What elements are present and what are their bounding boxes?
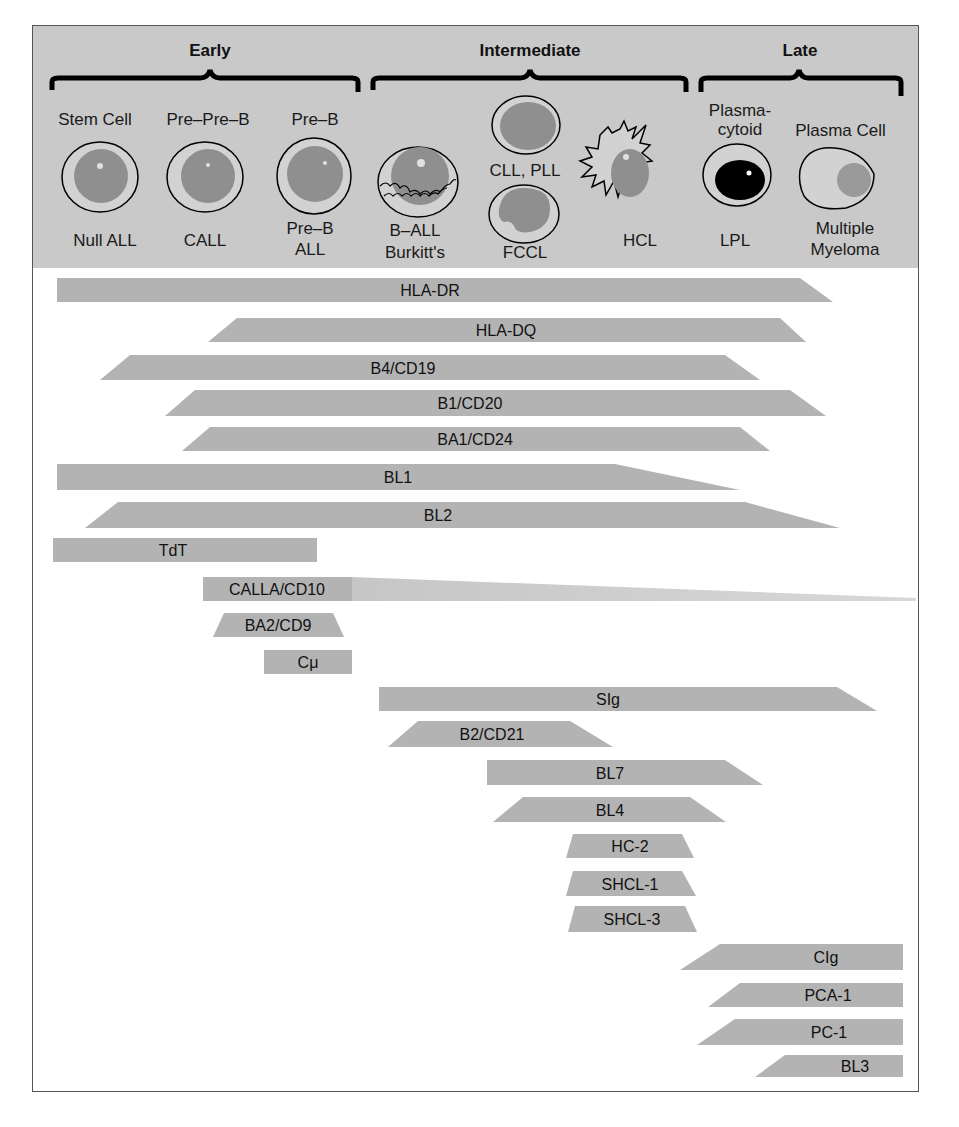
plasma-cell-icon xyxy=(800,148,875,209)
bracket-intermediate xyxy=(373,70,686,92)
hcl-cell-icon xyxy=(580,121,652,197)
b-all-cell-icon xyxy=(378,147,458,217)
cell-name-stem-cell: Stem Cell xyxy=(45,110,145,129)
marker-bar-hla-dq: HLA-DQ xyxy=(208,318,806,342)
disease-call: CALL xyxy=(170,231,240,250)
marker-label: SIg xyxy=(596,691,620,708)
disease-burkitts: Burkitt's xyxy=(365,243,465,262)
marker-bar-pca-1: PCA-1 xyxy=(708,983,903,1007)
bracket-early xyxy=(52,70,358,92)
marker-label: SHCL-1 xyxy=(602,876,659,893)
marker-bar-ba1-cd24: BA1/CD24 xyxy=(182,427,770,451)
marker-label: BA1/CD24 xyxy=(437,431,513,448)
pre-pre-b-cell-icon xyxy=(167,142,243,212)
marker-label: HC-2 xyxy=(611,838,648,855)
marker-bar-shcl-3: SHCL-3 xyxy=(568,906,697,932)
cell-name-plasmacytoid-2: cytoid xyxy=(690,120,790,139)
marker-label: Cμ xyxy=(298,654,319,671)
marker-bar-sig: SIg xyxy=(379,687,877,711)
marker-bar-bl7: BL7 xyxy=(487,760,763,785)
marker-bar-pc-1: PC-1 xyxy=(697,1019,903,1045)
marker-label: CIg xyxy=(814,949,839,966)
marker-bar-bl2: BL2 xyxy=(85,502,840,528)
marker-label: BL4 xyxy=(596,802,625,819)
cell-name-plasma-cell: Plasma Cell xyxy=(778,121,903,140)
stem-cell-icon xyxy=(62,142,138,212)
marker-bar-ba2-cd9: BA2/CD9 xyxy=(213,613,344,637)
disease-pre-b-all-1: Pre–B xyxy=(275,219,345,238)
marker-bar-b2-cd21: B2/CD21 xyxy=(388,721,613,747)
marker-label: BL2 xyxy=(424,507,453,524)
marker-bar-b4-cd19: B4/CD19 xyxy=(100,355,760,380)
cell-name-plasmacytoid-1: Plasma- xyxy=(690,101,790,120)
disease-multiple: Multiple xyxy=(790,219,900,238)
calla-cd10-fade-tail xyxy=(352,577,916,601)
marker-label: CALLA/CD10 xyxy=(229,581,325,598)
marker-label: PC-1 xyxy=(811,1024,848,1041)
marker-bar-c-: Cμ xyxy=(264,650,352,674)
pre-b-cell-icon xyxy=(277,138,351,214)
cell-name-pre-pre-b: Pre–Pre–B xyxy=(153,110,263,129)
fccl-cell-icon xyxy=(489,185,559,243)
marker-label: B1/CD20 xyxy=(438,395,503,412)
disease-myeloma: Myeloma xyxy=(790,240,900,259)
marker-label: BL3 xyxy=(841,1058,870,1075)
disease-lpl: LPL xyxy=(700,231,770,250)
marker-label: HLA-DR xyxy=(400,282,460,299)
marker-bar-hla-dr: HLA-DR xyxy=(57,278,833,302)
marker-label: BL1 xyxy=(384,469,413,486)
disease-fccl: FCCL xyxy=(485,243,565,262)
plasmacytoid-cell-icon xyxy=(703,144,771,206)
stage-intermediate: Intermediate xyxy=(460,41,600,61)
cell-name-pre-b: Pre–B xyxy=(280,110,350,129)
cll-pll-cell-icon xyxy=(492,96,560,154)
marker-bar-bl4: BL4 xyxy=(493,797,726,822)
stage-early: Early xyxy=(170,41,250,61)
marker-label: B2/CD21 xyxy=(460,726,525,743)
marker-bar-bl1: BL1 xyxy=(57,464,740,490)
marker-label: TdT xyxy=(159,542,188,559)
marker-bar-cig: CIg xyxy=(680,944,903,970)
disease-hcl: HCL xyxy=(605,231,675,250)
marker-label: BL7 xyxy=(596,765,625,782)
marker-bar-calla-cd10: CALLA/CD10 xyxy=(203,577,352,601)
marker-bar-b1-cd20: B1/CD20 xyxy=(165,390,826,416)
disease-null-all: Null ALL xyxy=(55,231,155,250)
marker-label: PCA-1 xyxy=(804,987,851,1004)
marker-label: B4/CD19 xyxy=(371,360,436,377)
marker-bars: HLA-DRHLA-DQB4/CD19B1/CD20BA1/CD24BL1BL2… xyxy=(53,278,916,1077)
bracket-late xyxy=(701,70,901,96)
marker-bar-tdt: TdT xyxy=(53,538,317,562)
marker-label: SHCL-3 xyxy=(604,911,661,928)
disease-cll-pll: CLL, PLL xyxy=(470,161,580,180)
marker-bar-shcl-1: SHCL-1 xyxy=(566,871,696,896)
marker-label: BA2/CD9 xyxy=(245,617,312,634)
marker-bar-bl3: BL3 xyxy=(755,1055,903,1077)
marker-bar-hc-2: HC-2 xyxy=(566,834,694,858)
disease-b-all: B–ALL xyxy=(370,221,460,240)
stage-late: Late xyxy=(770,41,830,61)
marker-label: HLA-DQ xyxy=(476,322,536,339)
disease-pre-b-all-2: ALL xyxy=(275,240,345,259)
